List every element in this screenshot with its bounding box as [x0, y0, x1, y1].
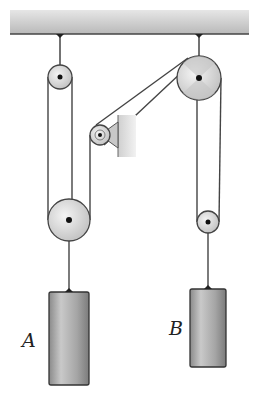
- block-a: [49, 288, 89, 385]
- pulley-top-right: [177, 56, 221, 100]
- block-b: [190, 285, 226, 367]
- pulley-lower-left: [48, 199, 90, 241]
- block-a-label: A: [22, 329, 36, 351]
- pulley-diagram-svg: [0, 0, 259, 396]
- block-b-label: B: [169, 317, 183, 339]
- ceiling: [10, 10, 249, 34]
- pulley-diagram: A B: [0, 0, 259, 396]
- pulley-lower-right: [197, 211, 219, 233]
- pulley-bracket-small: [90, 125, 110, 145]
- pulley-top-left: [48, 65, 72, 89]
